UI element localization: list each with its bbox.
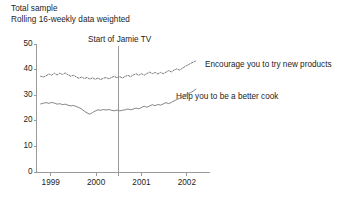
plot-area — [0, 0, 363, 199]
x-axis-tick-label: 2001 — [126, 178, 156, 187]
x-axis-tick-label: 2002 — [172, 178, 202, 187]
y-axis-tick-label: 40 — [15, 64, 33, 73]
x-axis-tick-label: 2000 — [81, 178, 111, 187]
y-axis-tick-label: 30 — [15, 90, 33, 99]
y-axis-tick-label: 50 — [15, 39, 33, 48]
y-axis-tick-label: 20 — [15, 115, 33, 124]
y-axis-tick-label: 10 — [15, 141, 33, 150]
chart-container: Total sample Rolling 16-weekly data weig… — [0, 0, 363, 199]
y-axis-tick-label: 0 — [15, 167, 33, 176]
x-axis-tick-label: 1999 — [36, 178, 66, 187]
